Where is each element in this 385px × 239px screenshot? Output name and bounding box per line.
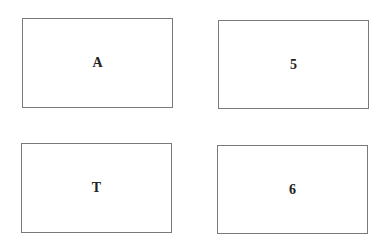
card-label: T: [92, 181, 101, 195]
card-a[interactable]: A: [22, 18, 173, 108]
card-label: 5: [290, 58, 297, 72]
card-5[interactable]: 5: [218, 20, 369, 109]
card-label: 6: [289, 183, 296, 197]
card-6[interactable]: 6: [217, 145, 368, 234]
card-label: A: [92, 56, 102, 70]
card-t[interactable]: T: [21, 143, 172, 233]
